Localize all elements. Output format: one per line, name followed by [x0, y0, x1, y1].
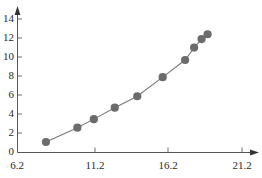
x-axis-arrow-icon: [250, 150, 259, 156]
plot-area: [0, 0, 262, 178]
y-tick-label-4: 4: [0, 108, 14, 119]
data-markers: [42, 30, 212, 146]
data-point: [159, 73, 167, 81]
y-tick-label-0: 0: [0, 146, 14, 157]
y-tick-label-8: 8: [0, 70, 14, 81]
y-tick-label-10: 10: [0, 51, 14, 62]
y-axis-arrow-icon: [15, 6, 21, 15]
x-tick-marks: [95, 148, 242, 153]
y-tick-marks: [18, 19, 23, 133]
data-point: [42, 138, 50, 146]
y-tick-label-14: 14: [0, 13, 14, 24]
data-point: [111, 104, 119, 112]
y-tick-label-12: 12: [0, 32, 14, 43]
data-point: [73, 124, 81, 132]
x-tick-label-16-2: 16.2: [151, 160, 185, 171]
data-line: [46, 34, 208, 142]
x-tick-label-21-2: 21.2: [225, 160, 259, 171]
x-tick-label-6-2: 6.2: [0, 160, 34, 171]
y-tick-label-2: 2: [0, 127, 14, 138]
data-point: [90, 115, 98, 123]
line-chart: 14 12 10 8 6 4 2 0 6.2 11.2 16.2 21.2: [0, 0, 262, 178]
data-point: [190, 44, 198, 52]
data-point: [133, 92, 141, 100]
y-tick-label-6: 6: [0, 89, 14, 100]
data-point: [181, 56, 189, 64]
data-point: [203, 30, 211, 38]
x-tick-label-11-2: 11.2: [78, 160, 112, 171]
